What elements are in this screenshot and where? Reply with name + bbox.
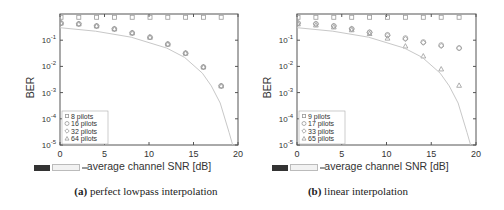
square-marker — [112, 15, 116, 19]
square-marker — [219, 15, 223, 19]
square-marker — [314, 15, 318, 19]
square-marker — [350, 15, 354, 19]
square-marker — [166, 15, 170, 19]
legend-item: 65 pilots — [308, 135, 335, 143]
caption-a-text: perfect lowpass interpolation — [90, 185, 218, 197]
y-tick-label: 10-2 — [279, 60, 294, 71]
square-marker — [439, 15, 443, 19]
x-tick-label: 20 — [233, 149, 243, 159]
square-marker — [130, 15, 134, 19]
y-tick-label: 10-4 — [42, 113, 57, 124]
square-marker — [95, 15, 99, 19]
y-axis-label: BER — [24, 76, 36, 98]
y-tick-label: 10-4 — [279, 113, 294, 124]
panel-a: 0510152010-110-210-310-410-5average chan… — [0, 0, 252, 210]
legend-item: 64 pilots — [71, 135, 98, 143]
x-tick-label: 0 — [294, 149, 299, 159]
square-marker — [368, 15, 372, 19]
square-marker — [403, 15, 407, 19]
triangle-marker — [403, 44, 408, 48]
stamp-light-box — [290, 164, 318, 171]
x-tick-label: 5 — [339, 149, 344, 159]
caption-b-label: (b) — [308, 185, 321, 197]
panel-b: 0510152010-110-210-310-410-5average chan… — [252, 0, 504, 210]
square-marker — [421, 15, 425, 19]
square-marker — [184, 15, 188, 19]
y-tick-label: 10-2 — [42, 60, 57, 71]
triangle-marker — [439, 67, 444, 71]
x-tick-label: 15 — [426, 149, 436, 159]
stamp-b — [272, 164, 326, 171]
circle-marker — [457, 46, 462, 51]
stamp-light-box — [52, 164, 80, 171]
stamp-dark-box — [34, 165, 50, 171]
y-tick-label: 10-3 — [42, 87, 57, 98]
y-tick-label: 10-1 — [279, 34, 294, 45]
x-tick-label: 10 — [144, 149, 154, 159]
square-marker — [457, 15, 461, 19]
y-tick-label: 10-1 — [42, 34, 57, 45]
stamp-tiny-mark — [82, 167, 88, 169]
x-tick-label: 20 — [471, 149, 481, 159]
x-axis-label: average channel SNR [dB] — [87, 160, 211, 172]
stamp-dark-box — [272, 165, 288, 171]
x-axis-label: average channel SNR [dB] — [324, 160, 448, 172]
x-tick-label: 5 — [102, 149, 107, 159]
x-tick-label: 10 — [381, 149, 391, 159]
stamp-tiny-mark — [320, 167, 326, 169]
y-tick-label: 10-5 — [42, 139, 57, 150]
chart-b: 0510152010-110-210-310-410-5average chan… — [252, 0, 504, 180]
square-marker — [77, 15, 81, 19]
triangle-marker — [457, 83, 462, 87]
x-tick-label: 15 — [188, 149, 198, 159]
stamp-a — [34, 164, 88, 171]
caption-a-label: (a) — [74, 185, 87, 197]
y-tick-label: 10-5 — [279, 139, 294, 150]
square-marker — [201, 15, 205, 19]
square-marker — [332, 15, 336, 19]
caption-b: (b) linear interpolation — [232, 185, 484, 197]
chart-a: 0510152010-110-210-310-410-5average chan… — [0, 0, 252, 180]
y-tick-label: 10-3 — [279, 87, 294, 98]
y-axis-label: BER — [261, 76, 273, 98]
x-tick-label: 0 — [57, 149, 62, 159]
caption-b-text: linear interpolation — [324, 185, 408, 197]
